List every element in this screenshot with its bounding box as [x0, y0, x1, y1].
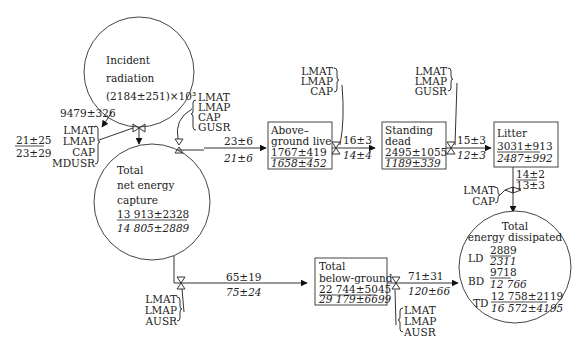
brace-icon: [334, 68, 339, 92]
aboveground-live-node: Above– ground live 1767±419 1658±452: [268, 122, 332, 169]
net-capture-label-2: net energy: [117, 179, 174, 191]
belowground-value-bottom: 29 179±6699: [318, 293, 392, 305]
capture-flow-value: 9479±326: [60, 107, 116, 119]
litter-value-top: 3031±913: [497, 140, 553, 152]
litter-factor-3: GUSR: [415, 85, 448, 97]
standing-value-bottom: 1189±339: [385, 157, 441, 169]
dissipated-label-2: energy dissipated: [468, 231, 563, 243]
net-capture-value-bottom: 14 805±2889: [117, 222, 190, 234]
belowground-flow-bottom: 75±24: [226, 286, 262, 298]
energy-flow-diagram: Incident radiation (2184±251)×10³ 9479±3…: [0, 0, 580, 353]
bd-bottom: 12 766: [490, 278, 527, 290]
below-dissipated-top: 71±31: [408, 270, 444, 282]
capture-ratio-top: 21±25: [16, 134, 52, 146]
brace-icon: [448, 68, 453, 91]
belowground-factor-3: AUSR: [144, 315, 178, 327]
incident-label-1: Incident: [106, 54, 151, 66]
net-capture-label-1: Total: [117, 164, 144, 176]
flow-below-to-dissipated: LMAT LMAP AUSR 71±31 120±66: [387, 270, 458, 338]
litter-flow-bottom: 12±3: [457, 149, 486, 161]
litter-node: Litter 3031±913 2487±992: [494, 122, 558, 167]
td-label: TD: [473, 297, 488, 309]
capture-ratio-bottom: 23±29: [16, 147, 52, 159]
standing-dead-node: Standing dead 2495±1055 1189±339: [382, 122, 447, 169]
belowground-node: Total below-ground 22 744±5045 29 179±66…: [315, 258, 393, 305]
belowground-flow-top: 65±19: [226, 271, 262, 283]
brace-icon: [177, 297, 182, 321]
belowground-label-1: Total: [319, 260, 346, 272]
brace-icon: [95, 126, 100, 164]
brace-icon: [495, 187, 500, 203]
incident-value: (2184±251)×10³: [106, 90, 196, 102]
aboveground-value-bottom: 1658±452: [271, 157, 327, 169]
below-dissipated-bottom: 120±66: [408, 285, 451, 297]
energy-dissipated-node: Total energy dissipated LD 2889 2311 BD …: [459, 211, 571, 323]
litter-dissipated-bottom: 13±3: [516, 179, 545, 191]
dissipated-litter-factor-2: CAP: [472, 195, 495, 207]
bd-label: BD: [468, 275, 484, 287]
standing-flow-top: 16±3: [343, 134, 372, 146]
flow-litter-to-dissipated: LMAT CAP 14±2 13±3: [463, 167, 545, 212]
standing-factor-3: CAP: [310, 85, 333, 97]
aboveground-flow-bottom: 21±6: [223, 152, 253, 164]
net-capture-value-top: 13 913±2328: [117, 208, 189, 220]
net-energy-capture-node: Total net energy capture 13 913±2328 14 …: [94, 144, 210, 260]
ld-label: LD: [468, 252, 483, 264]
aboveground-factor-4: GUSR: [198, 121, 231, 133]
incident-label-2: radiation: [106, 72, 155, 84]
standing-flow-bottom: 14±4: [343, 149, 372, 161]
aboveground-flow-top: 23±6: [224, 135, 253, 147]
brace-icon: [398, 308, 403, 332]
brace-icon: [191, 100, 196, 130]
td-bottom: 16 572±4195: [491, 302, 564, 314]
capture-factor-4: MDUSR: [52, 157, 96, 169]
litter-value-bottom: 2487±992: [496, 152, 553, 164]
net-capture-label-3: capture: [117, 194, 158, 206]
litter-flow-top: 15±3: [457, 134, 486, 146]
flow-to-belowground: LMAT LMAP AUSR 65±19 75±24: [144, 256, 307, 327]
td-top: 12 758±2119: [491, 290, 563, 302]
dissipated-below-factor-3: AUSR: [403, 326, 437, 338]
bd-top: 9718: [490, 266, 517, 278]
litter-label: Litter: [497, 127, 528, 139]
